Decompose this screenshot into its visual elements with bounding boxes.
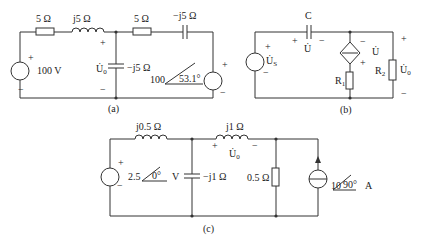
source-a-left-label: 100 V: [37, 65, 62, 76]
arrow-up-icon: [315, 156, 321, 163]
resistor-r1: [346, 72, 353, 89]
is-magnitude: 10: [331, 180, 341, 191]
is-unit: A: [365, 180, 373, 191]
polarity-minus: −: [401, 88, 407, 99]
polarity-plus: +: [360, 57, 366, 68]
is-angle: 90°: [343, 179, 357, 190]
caption-b: (b): [340, 104, 352, 116]
resistor-a1: [36, 28, 54, 35]
r2-label: R2: [375, 65, 386, 78]
dependent-u-label: U̇: [372, 46, 380, 57]
circuit-b: C + U̇ − + U̇S − − U̇ + R1 R2 + U̇0 − (b…: [246, 10, 411, 116]
circuit-c: j0.5 Ω j1 Ω + U̇0 − + − 2.5 0° V −j1 Ω 0…: [101, 121, 373, 235]
polarity-minus: −: [18, 84, 24, 95]
polarity-minus: −: [360, 36, 366, 47]
resistor-a2-label: 5 Ω: [134, 13, 149, 24]
polarity-plus: +: [212, 140, 218, 151]
polarity-minus: −: [117, 180, 123, 191]
capacitor-a-mid-label: −j5 Ω: [127, 62, 150, 73]
source-a-right-angle: 53.1°: [179, 73, 201, 84]
capacitor-c-label: C: [305, 10, 312, 21]
resistor-c-label: 0.5 Ω: [247, 172, 269, 183]
caption-a: (a): [108, 103, 119, 115]
resistor-a2: [133, 28, 151, 35]
polarity-plus: +: [292, 35, 298, 46]
vs-magnitude: 2.5: [128, 171, 141, 182]
polarity-minus: −: [252, 140, 258, 151]
voltage-source-a-left: [11, 62, 29, 80]
source-a-right-magnitude: 100: [150, 74, 165, 85]
resistor-a1-label: 5 Ω: [36, 13, 51, 24]
u0-label-a: U̇0: [96, 63, 107, 76]
resistor-c: [272, 168, 279, 186]
polarity-minus: −: [220, 87, 226, 98]
u-label: U̇: [304, 43, 312, 54]
r1-label: R1: [335, 75, 346, 88]
resistor-r2: [389, 60, 396, 80]
inductor-c1: [135, 135, 167, 139]
u0-label-b: U̇0: [400, 64, 411, 77]
polarity-plus: +: [401, 33, 407, 44]
polarity-minus: −: [263, 67, 269, 78]
capacitor-c-label: −j1 Ω: [203, 171, 226, 182]
circuit-diagrams: 5 Ω j5 Ω 5 Ω −j5 Ω −j5 Ω 100 V + − + − U…: [0, 0, 422, 246]
vs-unit: V: [172, 171, 180, 182]
capacitor-a-top-label: −j5 Ω: [173, 10, 196, 21]
polarity-plus: +: [222, 59, 228, 70]
vs-angle: 0°: [152, 170, 161, 181]
inductor-a1: [72, 28, 104, 32]
polarity-plus: +: [28, 52, 34, 63]
polarity-plus: +: [265, 41, 271, 52]
inductor-c2-label: j1 Ω: [225, 121, 244, 132]
u0-label-c: U̇0: [229, 148, 240, 161]
polarity-plus: +: [118, 157, 124, 168]
polarity-minus: −: [100, 84, 106, 95]
caption-c: (c): [203, 223, 214, 235]
polarity-minus: −: [319, 35, 325, 46]
voltage-source-us: [246, 53, 264, 71]
inductor-c1-label: j0.5 Ω: [135, 121, 161, 132]
polarity-plus: +: [100, 37, 106, 48]
circuit-a: 5 Ω j5 Ω 5 Ω −j5 Ω −j5 Ω 100 V + − + − U…: [11, 10, 228, 115]
inductor-a1-label: j5 Ω: [72, 13, 91, 24]
inductor-c2: [216, 135, 248, 139]
